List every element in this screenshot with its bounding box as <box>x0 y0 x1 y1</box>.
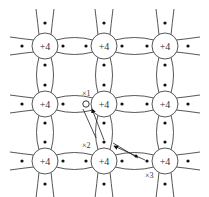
valence-electron <box>43 21 46 24</box>
valence-electron <box>102 83 105 86</box>
valence-electron <box>163 121 166 124</box>
valence-electron <box>120 44 123 47</box>
valence-electron <box>43 140 46 143</box>
ion-charge-label: +4 <box>160 99 171 110</box>
silicon-ion: +4 <box>32 148 58 174</box>
valence-electron <box>145 159 148 162</box>
silicon-ion: +4 <box>152 91 178 117</box>
valence-electron <box>43 83 46 86</box>
silicon-lattice-diagram: +4+4+4+4+4+4+4+4+4×1×2×3 <box>0 0 209 197</box>
silicon-ion: +4 <box>152 33 178 59</box>
valence-electron <box>120 159 123 162</box>
silicon-ion: +4 <box>91 91 117 117</box>
hole-icon <box>83 101 89 107</box>
valence-electron <box>102 21 105 24</box>
valence-electron <box>120 102 123 105</box>
valence-electron <box>163 140 166 143</box>
valence-electron <box>20 102 23 105</box>
silicon-ion: +4 <box>152 148 178 174</box>
valence-electron <box>43 63 46 66</box>
valence-electron <box>84 44 87 47</box>
valence-electron <box>61 159 64 162</box>
valence-electron <box>163 63 166 66</box>
silicon-ion: +4 <box>91 148 117 174</box>
valence-electron <box>43 182 46 185</box>
valence-electron <box>186 102 189 105</box>
ion-charge-label: +4 <box>160 41 171 52</box>
ion-charge-label: +4 <box>40 41 51 52</box>
valence-electron <box>61 44 64 47</box>
ion-charge-label: +4 <box>99 41 110 52</box>
valence-electron <box>145 44 148 47</box>
valence-electron <box>102 63 105 66</box>
valence-electron <box>43 121 46 124</box>
valence-electron <box>20 159 23 162</box>
ion-charge-label: +4 <box>40 156 51 167</box>
valence-electron <box>163 21 166 24</box>
step-label: ×3 <box>145 171 154 180</box>
ion-cores: +4+4+4+4+4+4+4+4+4 <box>32 33 178 174</box>
ion-charge-label: +4 <box>40 99 51 110</box>
step-label: ×1 <box>82 89 91 98</box>
silicon-ion: +4 <box>91 33 117 59</box>
silicon-ion: +4 <box>32 33 58 59</box>
valence-electron <box>61 102 64 105</box>
valence-electron <box>84 159 87 162</box>
valence-electron <box>20 44 23 47</box>
valence-electron <box>186 44 189 47</box>
valence-electron <box>145 102 148 105</box>
ion-charge-label: +4 <box>160 156 171 167</box>
valence-electron <box>163 83 166 86</box>
valence-electron <box>163 182 166 185</box>
ion-charge-label: +4 <box>99 156 110 167</box>
valence-electron <box>102 121 105 124</box>
valence-electron <box>102 140 105 143</box>
step-label: ×2 <box>82 141 91 150</box>
silicon-ion: +4 <box>32 91 58 117</box>
valence-electron <box>186 159 189 162</box>
valence-electron <box>102 182 105 185</box>
ion-charge-label: +4 <box>99 99 110 110</box>
